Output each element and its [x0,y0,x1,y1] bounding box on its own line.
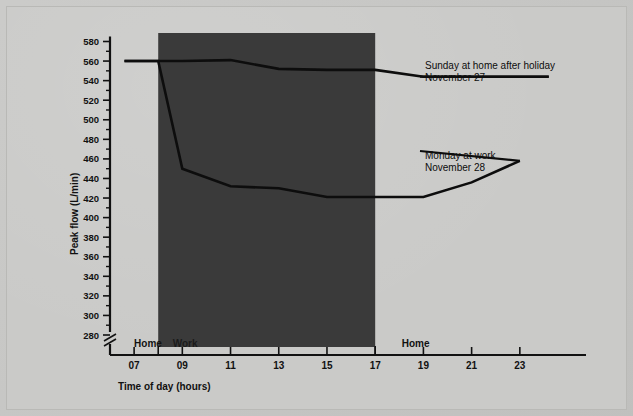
y-tick-label: 440 [83,173,99,184]
y-tick-label: 460 [83,153,99,164]
y-tick-label: 280 [83,330,99,341]
x-tick-label: 15 [321,360,333,371]
y-tick-label: 360 [83,251,99,262]
peak-flow-chart: 2803003203403603804004204404604805005205… [0,0,633,416]
y-axis-title: Peak flow (L/min) [69,173,80,255]
x-tick-label: 07 [129,360,141,371]
annotation-sunday-line1: Sunday at home after holiday [425,60,555,71]
y-tick-label: 400 [83,212,99,223]
annotation-monday-line2: November 28 [425,162,485,173]
x-tick-label: 23 [514,360,526,371]
x-tick-label: 11 [225,360,236,371]
axis-break-marks [104,334,116,355]
y-tick-label: 520 [83,95,99,106]
y-tick-label: 500 [83,114,99,125]
x-axis-ticks: 070911131517192123 [129,347,526,371]
y-tick-label: 540 [83,75,99,86]
annotation-monday-line1: Monday at work [425,150,497,161]
zone-label: Work [173,338,198,349]
zone-label: Home [402,338,430,349]
y-tick-label: 560 [83,56,99,67]
y-axis-ticks: 2803003203403603804004204404604805005205… [83,36,110,341]
y-tick-label: 480 [83,134,99,145]
y-tick-label: 320 [83,290,99,301]
x-tick-label: 09 [177,360,189,371]
zone-label: Home [134,338,162,349]
y-tick-label: 380 [83,232,99,243]
work-period-shading [158,33,375,347]
x-tick-label: 19 [418,360,430,371]
x-tick-label: 13 [273,360,285,371]
y-tick-label: 580 [83,36,99,47]
annotation-sunday-line2: November 27 [425,72,485,83]
y-tick-label: 300 [83,310,99,321]
chart-svg: 2803003203403603804004204404604805005205… [0,0,633,416]
x-axis-title: Time of day (hours) [118,381,211,392]
x-tick-label: 21 [466,360,478,371]
y-tick-label: 420 [83,193,99,204]
x-tick-label: 17 [370,360,382,371]
y-tick-label: 340 [83,271,99,282]
